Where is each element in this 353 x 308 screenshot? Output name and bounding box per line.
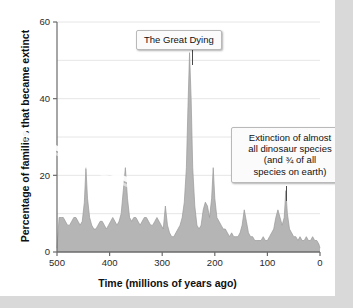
- x-tick-label: 400: [102, 257, 118, 268]
- chart-figure: 02040605004003002001000 The Great Dying …: [0, 0, 335, 296]
- annotation-dinosaur-line-1: Extinction of almost: [235, 132, 335, 143]
- y-tick-label: 0: [45, 246, 50, 257]
- figure-bottom-margin: [0, 296, 353, 308]
- x-tick-label: 200: [207, 257, 223, 268]
- y-axis-ticks: 0204060: [39, 16, 57, 257]
- x-tick-label: 500: [49, 257, 65, 268]
- x-tick-label: 0: [317, 257, 322, 268]
- annotation-dinosaur-line-3: (and ¾ of all: [235, 154, 335, 165]
- x-tick-label: 300: [154, 257, 170, 268]
- dinosaur-extinction-leader-line: [286, 186, 287, 201]
- y-tick-label: 40: [39, 93, 50, 104]
- annotation-great-dying-text: The Great Dying: [144, 34, 214, 45]
- annotation-dinosaur-extinction: Extinction of almost all dinosaur specie…: [231, 127, 335, 183]
- y-tick-label: 60: [39, 16, 50, 27]
- y-tick-label: 20: [39, 170, 50, 181]
- x-tick-label: 100: [259, 257, 275, 268]
- x-axis-ticks: 5004003002001000: [49, 252, 323, 268]
- great-dying-leader-line: [192, 48, 193, 65]
- annotation-dinosaur-line-2: all dinosaur species: [235, 143, 335, 154]
- annotation-great-dying: The Great Dying: [136, 30, 222, 50]
- annotation-dinosaur-line-4: species on earth): [235, 166, 335, 177]
- y-axis-title: Percentage of families that became extin…: [19, 11, 31, 261]
- figure-right-margin: [335, 0, 353, 308]
- x-axis-title: Time (millions of years ago): [0, 277, 335, 289]
